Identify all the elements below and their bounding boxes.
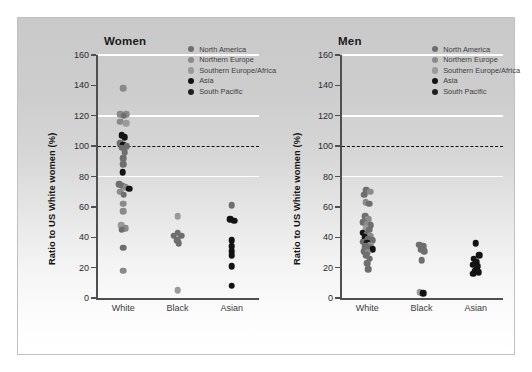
y-tick-0 (91, 297, 96, 298)
legend-label: South Pacific (199, 88, 242, 95)
data-point (473, 240, 480, 247)
legend-label: North America (443, 46, 490, 53)
data-point (123, 120, 130, 127)
x-tick-label-white: White (356, 303, 379, 313)
legend-label: Northern Europe (443, 56, 498, 63)
legend-label: Southern Europe/Africa (199, 67, 276, 74)
y-tick-100 (335, 145, 340, 146)
y-tick-label-0: 0 (84, 293, 89, 303)
legend-item: Southern Europe/Africa (432, 65, 520, 76)
y-tick-label-140: 140 (74, 80, 89, 90)
data-point (120, 245, 127, 252)
legend-label: Asia (199, 77, 213, 84)
y-tick-20 (91, 267, 96, 268)
legend-item: Northern Europe (432, 55, 520, 66)
y-tick-label-160: 160 (74, 50, 89, 60)
data-point (120, 267, 127, 274)
data-point (120, 85, 127, 92)
legend-label: North America (199, 46, 246, 53)
data-point (174, 213, 181, 220)
legend-label: Northern Europe (199, 56, 254, 63)
legend-item: South Pacific (188, 86, 276, 97)
y-tick-label-100: 100 (74, 141, 89, 151)
legend-item: Asia (188, 76, 276, 87)
gridline-120 (342, 115, 503, 117)
x-tick-label-black: Black (166, 303, 188, 313)
y-tick-label-20: 20 (79, 263, 89, 273)
legend-women: North AmericaNorthern EuropeSouthern Eur… (188, 44, 276, 97)
y-tick-40 (335, 237, 340, 238)
legend-item: Asia (432, 76, 520, 87)
legend-label: Southern Europe/Africa (443, 67, 520, 74)
gridline-80 (98, 176, 259, 178)
data-point (120, 201, 127, 208)
data-point (420, 290, 427, 297)
legend-dot-icon (188, 78, 194, 84)
y-axis-label-men: Ratio to US White women (%) (292, 133, 302, 265)
legend-item: North America (188, 44, 276, 55)
panel-title-women: Women (104, 35, 146, 47)
figure-root: Women Ratio to US White women (%) 020406… (0, 0, 532, 372)
data-point (120, 161, 127, 168)
y-tick-60 (335, 206, 340, 207)
data-point (175, 240, 182, 247)
legend-dot-icon (432, 46, 438, 52)
data-point (229, 252, 236, 259)
legend-dot-icon (188, 46, 194, 52)
reference-line-100 (342, 146, 503, 147)
legend-item: Northern Europe (188, 55, 276, 66)
legend-item: South Pacific (432, 86, 520, 97)
data-point (229, 202, 236, 209)
x-tick-label-black: Black (410, 303, 432, 313)
y-tick-140 (335, 85, 340, 86)
data-point (119, 226, 126, 233)
legend-item: North America (432, 44, 520, 55)
data-point (126, 185, 133, 192)
y-tick-140 (91, 85, 96, 86)
data-point (229, 263, 236, 270)
y-tick-label-80: 80 (79, 172, 89, 182)
x-tick-label-white: White (112, 303, 135, 313)
y-tick-80 (91, 176, 96, 177)
x-tick-label-asian: Asian (465, 303, 488, 313)
y-tick-label-120: 120 (74, 111, 89, 121)
y-tick-120 (335, 115, 340, 116)
legend-dot-icon (188, 57, 194, 63)
y-tick-160 (335, 54, 340, 55)
y-tick-label-60: 60 (79, 202, 89, 212)
legend-label: Asia (443, 77, 457, 84)
data-point (119, 169, 126, 176)
y-tick-label-120: 120 (318, 111, 333, 121)
legend-men: North AmericaNorthern EuropeSouthern Eur… (432, 44, 520, 97)
data-point (365, 266, 372, 273)
y-tick-120 (91, 115, 96, 116)
y-tick-label-100: 100 (318, 141, 333, 151)
data-point (229, 283, 236, 290)
data-point (361, 191, 368, 198)
legend-dot-icon (432, 78, 438, 84)
panel-title-men: Men (338, 35, 362, 47)
data-point (120, 208, 127, 215)
y-tick-label-40: 40 (323, 232, 333, 242)
y-tick-100 (91, 145, 96, 146)
legend-dot-icon (432, 57, 438, 63)
y-tick-label-0: 0 (328, 293, 333, 303)
y-tick-0 (335, 297, 340, 298)
data-point (475, 269, 482, 276)
x-axis-line-women (96, 298, 259, 300)
y-tick-label-60: 60 (323, 202, 333, 212)
y-tick-label-40: 40 (79, 232, 89, 242)
data-point (231, 217, 238, 224)
data-point (366, 201, 373, 208)
figure-plate: Women Ratio to US White women (%) 020406… (17, 17, 515, 355)
y-tick-60 (91, 206, 96, 207)
y-tick-160 (91, 54, 96, 55)
y-tick-80 (335, 176, 340, 177)
legend-dot-icon (188, 67, 194, 73)
data-point (121, 191, 128, 198)
y-tick-20 (335, 267, 340, 268)
y-tick-label-80: 80 (323, 172, 333, 182)
y-axis-label-women: Ratio to US White women (%) (47, 133, 57, 265)
gridline-80 (342, 176, 503, 178)
y-tick-label-140: 140 (318, 80, 333, 90)
